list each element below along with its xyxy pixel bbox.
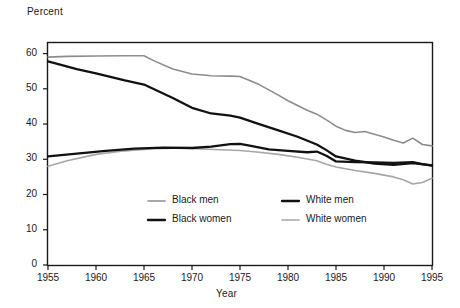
x-tick-label: 1980	[268, 272, 308, 283]
x-tick-label: 1960	[76, 272, 116, 283]
y-tick-label: 10	[11, 223, 37, 234]
plot-area	[0, 0, 460, 308]
y-tick-label: 40	[11, 117, 37, 128]
legend-label-white-men: White men	[306, 194, 354, 205]
x-tick-label: 1990	[364, 272, 404, 283]
legend-label-black-women: Black women	[172, 213, 231, 224]
y-tick-label: 50	[11, 82, 37, 93]
y-tick-label: 0	[11, 258, 37, 269]
x-tick-label: 1965	[124, 272, 164, 283]
chart-figure: Percent Year 010203040506019551960196519…	[0, 0, 460, 308]
legend-label-white-women: White women	[306, 213, 367, 224]
x-tick-label: 1970	[172, 272, 212, 283]
x-tick-label: 1995	[412, 272, 452, 283]
x-tick-label: 1955	[28, 272, 68, 283]
y-tick-label: 60	[11, 47, 37, 58]
x-tick-label: 1985	[316, 272, 356, 283]
y-tick-label: 20	[11, 188, 37, 199]
y-tick-label: 30	[11, 152, 37, 163]
legend-label-black-men: Black men	[172, 194, 219, 205]
x-tick-label: 1975	[220, 272, 260, 283]
